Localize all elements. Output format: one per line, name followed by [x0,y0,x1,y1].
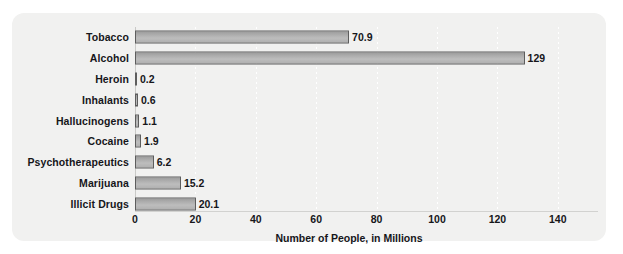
x-tick-60: 60 [310,213,322,225]
bar-row-hallucinogens: Hallucinogens 1.1 [12,110,606,131]
x-tick-80: 80 [371,213,383,225]
bar-row-cocaine: Cocaine 1.9 [12,131,606,152]
bar-heroin [135,72,137,85]
bar-marijuana [135,176,181,189]
category-label-psychotherapeutics: Psychotherapeutics [27,156,129,168]
value-label-cocaine: 1.9 [144,135,159,147]
category-label-cocaine: Cocaine [87,135,129,147]
x-tick-120: 120 [489,213,507,225]
value-label-psychotherapeutics: 6.2 [157,156,172,168]
bar-illicit-drugs [135,197,196,210]
bar-row-psychotherapeutics: Psychotherapeutics 6.2 [12,152,606,173]
bar-row-tobacco: Tobacco 70.9 [12,27,606,48]
category-label-alcohol: Alcohol [90,52,129,64]
category-label-inhalants: Inhalants [82,94,129,106]
category-label-heroin: Heroin [95,73,129,85]
value-label-alcohol: 129 [528,52,546,64]
bar-inhalants [135,93,138,106]
value-label-marijuana: 15.2 [184,177,204,189]
value-label-heroin: 0.2 [140,73,155,85]
chart-panel: Tobacco 70.9 Alcohol 129 Heroin 0.2 Inha… [12,13,606,241]
category-label-illicit-drugs: Illicit Drugs [71,198,129,210]
x-axis-title: Number of People, in Millions [12,232,606,244]
bar-row-inhalants: Inhalants 0.6 [12,89,606,110]
bar-cocaine [135,135,141,148]
bar-row-marijuana: Marijuana 15.2 [12,173,606,194]
x-tick-40: 40 [250,213,262,225]
x-tick-140: 140 [549,213,567,225]
bar-tobacco [135,31,349,44]
category-label-tobacco: Tobacco [86,31,129,43]
bar-row-alcohol: Alcohol 129 [12,48,606,69]
value-label-tobacco: 70.9 [352,31,372,43]
bar-hallucinogens [135,114,139,127]
bar-alcohol [135,52,525,65]
x-axis-line [135,211,598,212]
value-label-hallucinogens: 1.1 [142,115,157,127]
value-label-inhalants: 0.6 [141,94,156,106]
category-label-hallucinogens: Hallucinogens [56,115,129,127]
x-tick-100: 100 [428,213,446,225]
x-tick-20: 20 [190,213,202,225]
plot-area: Tobacco 70.9 Alcohol 129 Heroin 0.2 Inha… [12,13,606,241]
value-label-illicit-drugs: 20.1 [199,198,219,210]
bar-psychotherapeutics [135,156,154,169]
category-label-marijuana: Marijuana [79,177,129,189]
x-tick-0: 0 [132,213,138,225]
bar-row-heroin: Heroin 0.2 [12,69,606,90]
